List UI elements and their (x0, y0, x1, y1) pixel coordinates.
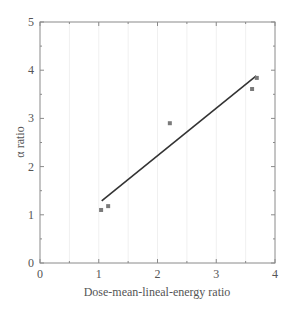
x-tick-labels: 01234 (37, 267, 278, 281)
data-point (99, 208, 103, 212)
data-point (255, 76, 259, 80)
grid-lines (69, 22, 245, 263)
data-point (168, 121, 172, 125)
x-tick-label: 3 (213, 267, 219, 281)
x-tick-label: 0 (37, 267, 43, 281)
y-tick-label: 1 (28, 208, 34, 222)
scatter-chart: 01234 012345 Dose-mean-lineal-energy rat… (0, 0, 291, 309)
data-points (99, 76, 259, 212)
data-point (250, 87, 254, 91)
x-tick-label: 1 (96, 267, 102, 281)
y-tick-labels: 012345 (28, 15, 34, 270)
y-tick-label: 2 (28, 160, 34, 174)
x-axis-label: Dose-mean-lineal-energy ratio (84, 285, 231, 299)
y-tick-label: 4 (28, 63, 34, 77)
y-axis-label: α ratio (13, 126, 27, 157)
y-tick-label: 0 (28, 256, 34, 270)
x-tick-label: 4 (272, 267, 278, 281)
y-tick-label: 5 (28, 15, 34, 29)
fit-line (102, 76, 257, 201)
data-point (106, 204, 110, 208)
y-tick-label: 3 (28, 111, 34, 125)
x-tick-label: 2 (155, 267, 161, 281)
